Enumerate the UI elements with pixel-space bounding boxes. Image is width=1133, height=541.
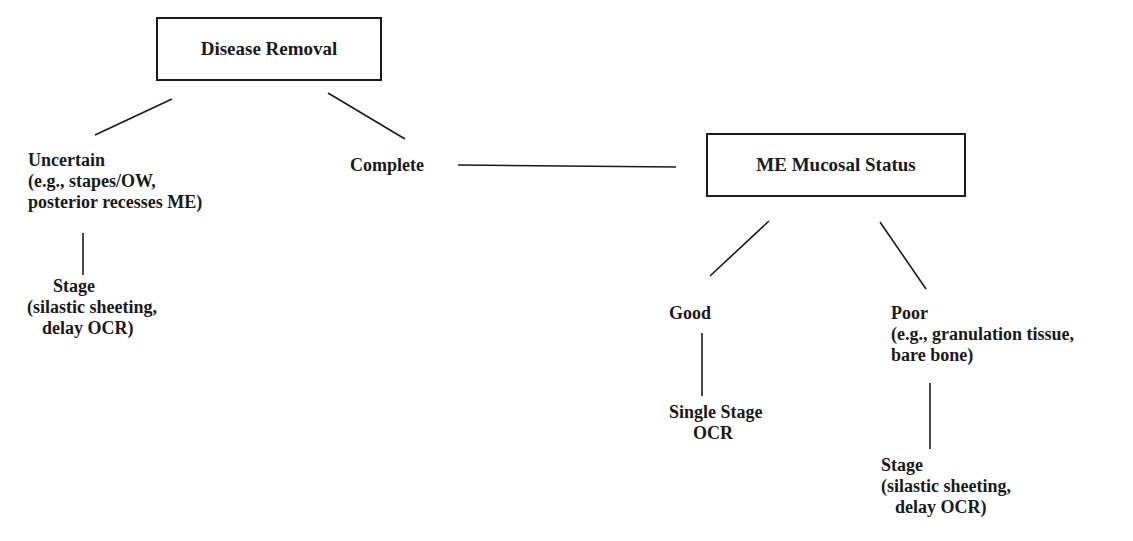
node-poor-example-cont: bare bone) [891,345,1074,366]
node-poor-title: Poor [891,303,1074,324]
node-stage-right-detail: (silastic sheeting, [881,476,1011,497]
node-good: Good [669,303,711,324]
node-uncertain-example: (e.g., stapes/OW, [28,171,202,192]
node-single-stage-ocr: Single Stage OCR [669,402,763,444]
edge-complete-to-me-status [458,165,676,167]
node-stage-left-detail-cont: delay OCR) [27,318,157,339]
decision-flowchart: Disease Removal Uncertain (e.g., stapes/… [0,0,1133,541]
node-poor-example: (e.g., granulation tissue, [891,324,1074,345]
node-stage-left-detail: (silastic sheeting, [27,297,157,318]
node-complete-label: Complete [350,155,424,176]
edge-me-status-to-poor [880,222,926,289]
node-me-mucosal-status: ME Mucosal Status [706,133,966,197]
node-disease-removal: Disease Removal [156,17,382,81]
edge-disease-to-uncertain [95,99,172,135]
node-stage-right-title: Stage [881,455,1011,476]
node-uncertain-title: Uncertain [28,150,202,171]
node-stage-right-detail-cont: delay OCR) [881,497,1011,518]
node-stage-left: Stage (silastic sheeting, delay OCR) [27,276,157,339]
node-stage-right: Stage (silastic sheeting, delay OCR) [881,455,1011,518]
node-single-stage-line1: Single Stage [669,402,763,423]
edge-disease-to-complete [328,93,405,139]
node-me-mucosal-status-label: ME Mucosal Status [756,154,915,176]
node-complete: Complete [350,155,424,176]
edge-me-status-to-good [710,221,769,276]
node-poor: Poor (e.g., granulation tissue, bare bon… [891,303,1074,366]
node-uncertain: Uncertain (e.g., stapes/OW, posterior re… [28,150,202,213]
node-good-label: Good [669,303,711,324]
node-disease-removal-label: Disease Removal [201,38,338,60]
node-single-stage-line2: OCR [669,423,763,444]
node-uncertain-example-cont: posterior recesses ME) [28,192,202,213]
node-stage-left-title: Stage [27,276,157,297]
